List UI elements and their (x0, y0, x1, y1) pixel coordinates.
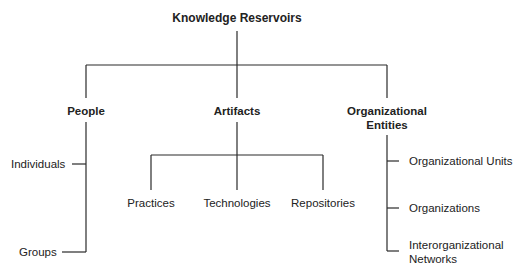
people-node-label: People (67, 104, 105, 118)
artifacts-node-label: Artifacts (214, 104, 261, 118)
organizations-node-label: Organizations (409, 201, 480, 215)
knowledge-reservoirs-diagram (0, 0, 518, 278)
org-entities-node-label-line2: Entities (366, 118, 408, 132)
technologies-node-label: Technologies (203, 196, 270, 210)
individuals-node-label: Individuals (11, 157, 65, 171)
repositories-node-label: Repositories (291, 196, 355, 210)
interorg-networks-node-label-line1: Interorganizational (409, 238, 504, 252)
groups-node-label: Groups (19, 245, 57, 259)
root-node-label: Knowledge Reservoirs (172, 11, 301, 25)
practices-node-label: Practices (127, 196, 174, 210)
org-units-node-label: Organizational Units (409, 154, 513, 168)
interorg-networks-node-label-line2: Networks (409, 252, 457, 266)
org-entities-node-label-line1: Organizational (347, 104, 427, 118)
